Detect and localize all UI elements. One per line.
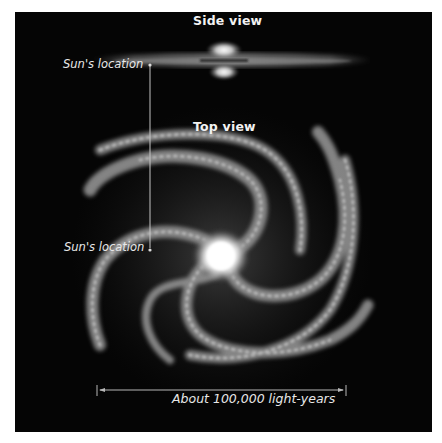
top-view-galaxy bbox=[71, 106, 371, 406]
scale-bar-label: About 100,000 light-years bbox=[172, 391, 335, 406]
side-view-title: Side view bbox=[193, 13, 262, 28]
sun-location-label-side: Sun's location bbox=[63, 57, 143, 71]
top-view-title: Top view bbox=[193, 119, 256, 134]
galaxy-illustration bbox=[15, 12, 432, 432]
sun-location-label-top: Sun's location bbox=[64, 240, 144, 254]
galaxy-figure-panel: Side view Sun's location Top view Sun's … bbox=[15, 12, 432, 432]
sun-marker-side bbox=[148, 63, 151, 66]
sun-marker-top bbox=[148, 248, 151, 251]
